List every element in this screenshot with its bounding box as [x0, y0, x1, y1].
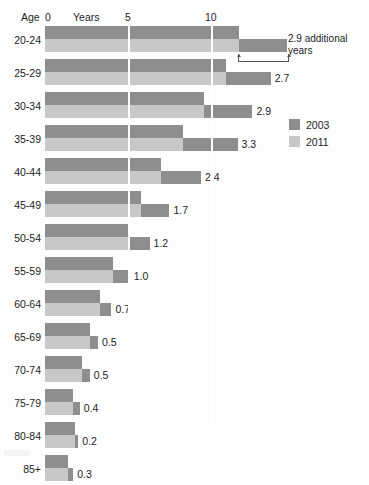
row-bars: 0.5	[45, 323, 98, 349]
row-label-age: 80-84	[0, 430, 41, 443]
value-label-difference: 0.4	[84, 401, 99, 416]
bar-2003	[45, 323, 90, 336]
row-label-age: 20-24	[0, 34, 41, 47]
bar-2011-base	[45, 105, 204, 118]
plot-area: 20-2425-292.730-342.935-393.340-442.445-…	[0, 25, 369, 440]
bar-2011-increase-segment	[239, 39, 287, 52]
row-bars: 0.3	[45, 455, 73, 481]
bar-2011-base	[45, 72, 226, 85]
bar-2011-base	[45, 369, 82, 382]
value-label-difference: 3.3	[242, 137, 257, 152]
legend-label: 2011	[306, 136, 329, 148]
value-label-difference: 1.0	[134, 269, 149, 284]
bar-2011-increase-segment	[73, 402, 80, 415]
bar-2011-group: 1.0	[45, 270, 130, 283]
row-bars: 0.2	[45, 422, 78, 448]
bar-2011-base	[45, 435, 75, 448]
axis-label-age: Age	[21, 11, 40, 23]
row-bars: 2.4	[45, 158, 201, 184]
row-label-age: 65-69	[0, 331, 41, 344]
value-label-difference: 0.3	[77, 467, 92, 482]
value-label-difference: 2.9	[257, 104, 272, 119]
bar-2011-base	[45, 402, 73, 415]
row-label-age: 60-64	[0, 298, 41, 311]
row-label-age: 85+	[0, 463, 41, 476]
bar-2011-increase-segment	[226, 72, 271, 85]
value-label-difference: 0.5	[94, 368, 109, 383]
axis-tick-10: 10	[205, 11, 217, 23]
bar-2011-base	[45, 204, 141, 217]
bar-2003	[45, 257, 113, 270]
row-bars: 0.4	[45, 389, 80, 415]
legend-item: 2011	[289, 135, 329, 148]
value-label-difference: 1.2	[154, 236, 169, 251]
value-label-difference: 0.5	[102, 335, 117, 350]
bar-2003	[45, 356, 82, 369]
bar-2011-increase-segment	[161, 171, 201, 184]
bar-2011-increase-segment	[130, 237, 150, 250]
annotation-measure-bracket	[238, 54, 289, 62]
row-label-age: 50-54	[0, 232, 41, 245]
annotation-line-2: years	[288, 45, 369, 57]
row-label-age: 30-34	[0, 100, 41, 113]
bar-2011-increase-segment	[68, 468, 73, 481]
bar-2011-group: 0.3	[45, 468, 73, 481]
row-label-age: 35-39	[0, 133, 41, 146]
bar-2003	[45, 290, 100, 303]
row-label-age: 70-74	[0, 364, 41, 377]
axis-tick-0: 0	[45, 11, 51, 23]
bar-2011-base	[45, 270, 113, 283]
bar-2011-group: 2.7	[45, 72, 271, 85]
row-label-age: 55-59	[0, 265, 41, 278]
legend-swatch-2011	[289, 136, 300, 147]
bar-2011-increase-segment	[82, 369, 90, 382]
bar-2011-group: 0.4	[45, 402, 80, 415]
bar-2011-base	[45, 171, 161, 184]
row-bars: 0.5	[45, 356, 90, 382]
bar-2011-group: 1.7	[45, 204, 170, 217]
row-bars: 1.2	[45, 224, 150, 250]
row-bars: 2.7	[45, 59, 271, 85]
row-bars: 2.9	[45, 92, 253, 118]
bar-2011-group: 2.9	[45, 105, 253, 118]
bar-2011-group: 2.4	[45, 171, 201, 184]
row-label-age: 75-79	[0, 397, 41, 410]
gridline-5	[128, 25, 130, 425]
row-label-age: 40-44	[0, 166, 41, 179]
value-label-difference: 0.2	[82, 434, 97, 449]
bar-2011-group: 0.5	[45, 369, 90, 382]
x-axis-header: Age 0 Years 5 10	[0, 11, 369, 25]
bar-2003	[45, 191, 141, 204]
bar-2011-group: 0.5	[45, 336, 98, 349]
bar-2011-increase-segment	[75, 435, 78, 448]
row-bars: 1.0	[45, 257, 130, 283]
bar-2011-group	[45, 39, 287, 52]
bar-2011-increase-segment	[90, 336, 98, 349]
bar-2011-base	[45, 336, 90, 349]
bar-2011-group: 0.2	[45, 435, 78, 448]
bar-2011-base	[45, 468, 68, 481]
legend-label: 2003	[306, 119, 329, 131]
bar-2003	[45, 224, 130, 237]
bar-2011-base	[45, 303, 100, 316]
legend-item: 2003	[289, 118, 329, 131]
row-label-age: 25-29	[0, 67, 41, 80]
bar-2003	[45, 125, 183, 138]
bar-2011-group: 3.3	[45, 138, 238, 151]
bar-2003	[45, 59, 226, 72]
bar-2003	[45, 455, 68, 468]
bar-2003	[45, 422, 75, 435]
row-bars	[45, 26, 287, 52]
axis-tick-5: 5	[125, 11, 131, 23]
gridline-10	[211, 25, 213, 425]
bar-2011-increase-segment	[141, 204, 169, 217]
row-label-age: 45-49	[0, 199, 41, 212]
row-bars: 0.7	[45, 290, 111, 316]
scan-artifact	[4, 450, 30, 456]
axis-label-years: Years	[73, 11, 99, 23]
row-bars: 3.3	[45, 125, 238, 151]
bar-2003	[45, 158, 161, 171]
value-label-difference: 1.7	[174, 203, 189, 218]
bar-2011-group: 1.2	[45, 237, 150, 250]
